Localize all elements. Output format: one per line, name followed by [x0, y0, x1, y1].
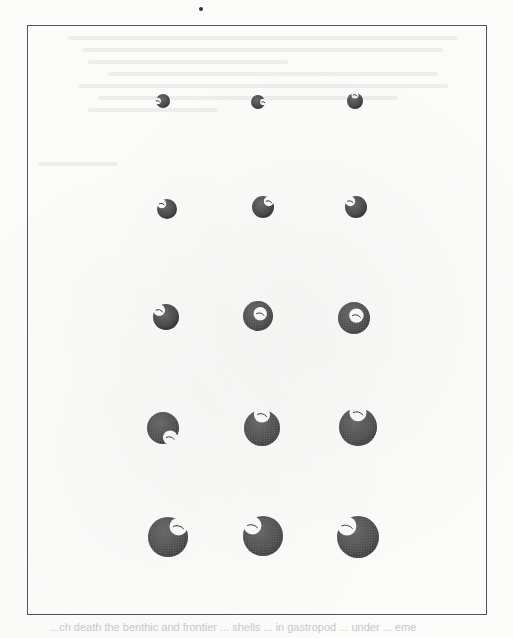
- shell-icon: [150, 88, 176, 114]
- shell-panel-r4c2: [238, 404, 286, 452]
- shell-panel-r1c1: [150, 88, 176, 114]
- shell-panel-r1c2: [245, 89, 271, 115]
- shell-panel-r4c3: [333, 402, 383, 452]
- shell-icon: [332, 296, 376, 340]
- shell-icon: [237, 295, 279, 337]
- shell-icon: [237, 510, 289, 562]
- shell-icon: [238, 404, 286, 452]
- shell-panel-r3c1: [147, 298, 185, 336]
- shell-icon: [147, 298, 185, 336]
- shell-panel-r2c2: [246, 190, 280, 224]
- shell-panel-r2c3: [339, 190, 373, 224]
- shell-icon: [331, 510, 385, 564]
- shell-panel-r5c1: [142, 511, 194, 563]
- shell-icon: [333, 402, 383, 452]
- shell-icon: [151, 193, 183, 225]
- shell-panel-r3c3: [332, 296, 376, 340]
- shell-icon: [339, 190, 373, 224]
- shell-panel-r5c2: [237, 510, 289, 562]
- shell-icon: [245, 89, 271, 115]
- shell-icon: [142, 511, 194, 563]
- shell-panel-r2c1: [151, 193, 183, 225]
- shell-panel-r3c2: [237, 295, 279, 337]
- shell-panel-r5c3: [331, 510, 385, 564]
- shell-icon: [141, 406, 185, 450]
- shell-panel-r1c3: [341, 87, 369, 115]
- shell-icon: [246, 190, 280, 224]
- page-mark-dot: [199, 7, 203, 11]
- figure-caption: ...ch death the benthic and frontier ...…: [50, 621, 480, 633]
- shell-icon: [341, 87, 369, 115]
- shell-panel-r4c1: [141, 406, 185, 450]
